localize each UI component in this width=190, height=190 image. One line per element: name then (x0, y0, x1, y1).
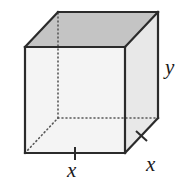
front-face (25, 47, 125, 153)
figure-container: x x y (0, 0, 190, 190)
dimension-label-x-bottom: x (67, 160, 76, 181)
dimension-label-x-right: x (146, 154, 155, 175)
dimension-label-y-right: y (165, 57, 174, 78)
cube-drawing (0, 0, 190, 190)
